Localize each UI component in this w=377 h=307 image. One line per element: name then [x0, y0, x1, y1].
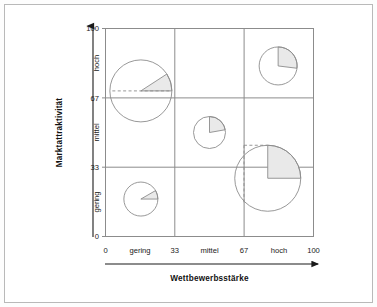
figure-root: 100 67 33 0 hoch mittel gering Marktattr…: [0, 0, 377, 307]
y-axis-title: Marktattraktivität: [55, 98, 64, 168]
x-category-mittel: mittel: [200, 246, 218, 255]
x-axis: 0 33 67 100 gering mittel hoch Wettbewer…: [103, 246, 319, 283]
x-tick-label-33: 33: [171, 246, 179, 255]
portfolio-matrix-chart: 100 67 33 0 hoch mittel gering Marktattr…: [0, 0, 377, 307]
x-category-gering: gering: [129, 246, 150, 255]
y-category-hoch: hoch: [92, 55, 101, 71]
x-category-hoch: hoch: [271, 246, 287, 255]
y-tick-label-0: 0: [95, 232, 99, 241]
y-category-gering: gering: [92, 191, 101, 212]
y-tick-label-100: 100: [86, 24, 99, 33]
y-tick-label-67: 67: [91, 94, 99, 103]
y-category-mittel: mittel: [92, 123, 101, 141]
x-axis-title: Wettbewerbsstärke: [170, 274, 249, 283]
x-tick-label-0: 0: [103, 246, 107, 255]
x-tick-label-100: 100: [307, 246, 320, 255]
x-tick-label-67: 67: [240, 246, 248, 255]
y-tick-label-33: 33: [91, 163, 99, 172]
y-axis: 100 67 33 0 hoch mittel gering Marktattr…: [55, 24, 106, 241]
